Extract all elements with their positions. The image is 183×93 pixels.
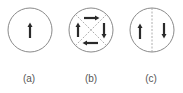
arrow-up-icon [28, 23, 33, 39]
panel-label-b: (b) [76, 73, 106, 84]
panel-label-c: (c) [136, 73, 166, 84]
panel-label-a: (a) [14, 73, 44, 84]
panel-b [69, 8, 113, 52]
arrow-up-icon [76, 23, 81, 38]
arrow-down-icon [162, 23, 167, 39]
panel-a [8, 8, 52, 52]
arrow-right-icon [84, 16, 100, 21]
arrow-down-icon [102, 23, 107, 39]
arrow-left-icon [83, 41, 99, 46]
panel-c [130, 8, 174, 52]
arrow-up-icon [138, 24, 143, 40]
